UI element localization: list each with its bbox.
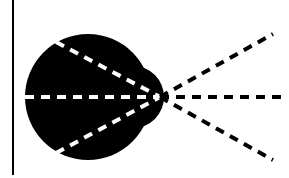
diverging-rays-black-dashed	[160, 34, 284, 160]
ray-diagram	[0, 0, 289, 178]
diverging-ray-2	[160, 97, 273, 160]
diagram-canvas	[0, 0, 289, 178]
diverging-ray-0	[160, 34, 273, 97]
